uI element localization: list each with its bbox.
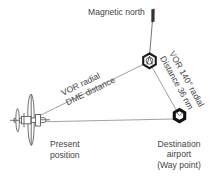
diagram-canvas: Magnetic north VOR radial DME distance V…	[0, 0, 215, 176]
airport-symbol-icon	[174, 110, 184, 122]
vor-station-icon	[143, 54, 156, 69]
route-legs	[32, 63, 179, 122]
label-radial-distance: VOR 140° radial Distance 36 nm	[158, 49, 206, 113]
label-present-position-line2: position	[50, 150, 80, 160]
label-destination-line3: (Way point)	[157, 160, 201, 170]
leg-aircraft-to-airport	[32, 119, 174, 122]
navigation-diagram: Magnetic north VOR radial DME distance V…	[0, 0, 215, 176]
label-vor-dme: VOR radial DME distance	[59, 65, 116, 107]
label-magnetic-north: Magnetic north	[88, 7, 145, 17]
label-present-position-line1: Present	[50, 139, 80, 149]
north-arrow-icon	[150, 9, 155, 56]
aircraft-top-view-icon	[10, 94, 50, 146]
label-destination-line1: Destination	[158, 139, 201, 149]
label-destination-line2: airport	[167, 149, 192, 159]
